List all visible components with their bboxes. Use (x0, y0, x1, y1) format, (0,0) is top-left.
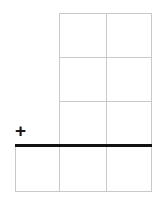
cell-r3c1[interactable] (60, 102, 106, 145)
plus-sign-icon: + (15, 121, 26, 140)
cell-r1c1[interactable] (60, 14, 106, 57)
cell-r1c2[interactable] (107, 14, 151, 57)
cell-r4c2[interactable] (60, 148, 106, 191)
cell-r4c1[interactable] (16, 148, 59, 191)
grid-line-bottom (15, 191, 152, 192)
grid-line-upper-right-edge (151, 13, 152, 145)
diagram-canvas: + (0, 0, 160, 203)
cell-r2c1[interactable] (60, 58, 106, 101)
cell-r3c2[interactable] (107, 102, 151, 145)
grid-line-lower-right-edge (151, 146, 152, 192)
cell-r4c3[interactable] (107, 148, 151, 191)
cell-r2c2[interactable] (107, 58, 151, 101)
horizontal-rule (15, 144, 152, 147)
